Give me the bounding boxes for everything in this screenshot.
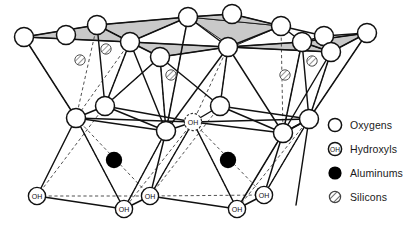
- oxygen-atom: [67, 109, 86, 128]
- svg-text:OH: OH: [330, 146, 340, 153]
- oxygen-atom: [300, 110, 319, 129]
- svg-text:OH: OH: [188, 119, 199, 126]
- legend-item-silicons: Silicons: [326, 188, 387, 206]
- aluminum-atom: [106, 152, 122, 168]
- legend-item-oxygens: Oxygens: [326, 116, 392, 134]
- oxygen-atom: [293, 33, 312, 52]
- hydroxyl-atom: OH: [255, 186, 272, 203]
- hydroxyl-atom: OH: [228, 200, 245, 217]
- legend-item-hydroxyls: OH Hydroxyls: [326, 140, 397, 158]
- legend-label-hydroxyls: Hydroxyls: [350, 144, 397, 155]
- oxygen-atom: [322, 43, 341, 62]
- legend-label-oxygens: Oxygens: [350, 120, 392, 131]
- silicon-atom: [307, 56, 317, 66]
- figure-root: OH OH OH OH OH OH: [0, 0, 418, 225]
- oxygen-atom: [211, 97, 230, 116]
- oxygen-atom: [219, 38, 238, 57]
- oxygen-atom: [96, 97, 115, 116]
- legend-label-silicons: Silicons: [350, 192, 387, 203]
- oxygen-atom: [272, 17, 291, 36]
- oxygen-atom: [274, 124, 293, 143]
- svg-text:OH: OH: [259, 192, 270, 199]
- oxygen-atom: [151, 48, 170, 67]
- hydroxyl-atom: OH: [28, 187, 45, 204]
- oxygen-atom: [157, 122, 176, 141]
- hydroxyl-atom: OH: [141, 187, 158, 204]
- legend-label-aluminums: Aluminums: [350, 168, 403, 179]
- oxygen-atom: [121, 33, 140, 52]
- hydroxyl-atom: OH: [115, 200, 132, 217]
- legend: Oxygens OH Hydroxyls Aluminums: [326, 116, 418, 212]
- hatched-circle-icon: [326, 188, 344, 206]
- hydroxyl-atom: OH: [184, 113, 201, 130]
- svg-text:OH: OH: [232, 206, 243, 213]
- silicon-atom: [280, 70, 290, 80]
- oxygen-atom: [179, 8, 198, 27]
- svg-text:OH: OH: [32, 193, 43, 200]
- oh-circle-icon: OH: [326, 140, 344, 158]
- silicon-atom: [166, 70, 176, 80]
- oxygen-atom: [223, 5, 242, 24]
- oxygen-atom: [15, 28, 34, 47]
- legend-item-aluminums: Aluminums: [326, 164, 403, 182]
- svg-text:OH: OH: [119, 206, 130, 213]
- oxygen-atom: [57, 26, 76, 45]
- svg-text:OH: OH: [145, 193, 156, 200]
- oxygen-atom: [358, 24, 377, 43]
- oxygen-atom: [88, 16, 107, 35]
- aluminum-atom: [220, 152, 236, 168]
- silicon-atom: [75, 55, 85, 65]
- open-circle-icon: [326, 116, 344, 134]
- silicon-atom: [101, 44, 111, 54]
- filled-circle-icon: [326, 164, 344, 182]
